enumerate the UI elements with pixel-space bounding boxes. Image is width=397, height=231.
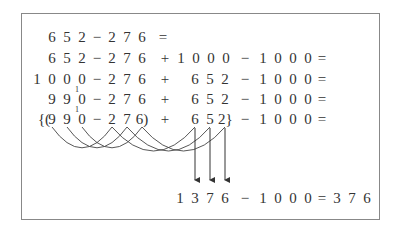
pairing-arc xyxy=(67,127,127,148)
pairing-arc xyxy=(52,127,112,148)
digit-pairing-arcs xyxy=(0,0,397,231)
